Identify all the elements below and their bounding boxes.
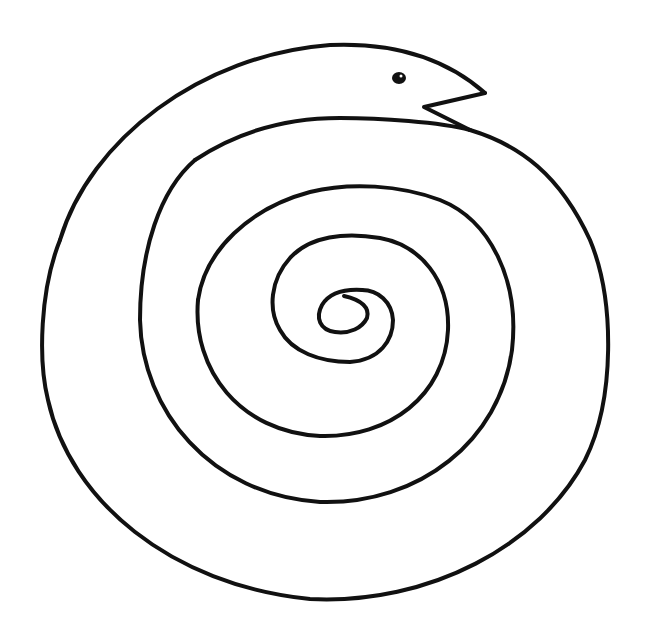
snake-head-lower-jaw (195, 118, 470, 160)
spiral-body-tail (319, 290, 368, 333)
snake-eye-highlight (400, 75, 403, 78)
snake-spiral-illustration (0, 0, 648, 632)
spiral-body-third (197, 235, 448, 436)
snake-eye (392, 72, 406, 84)
drawing-canvas (0, 0, 648, 632)
snake-head-upper-jaw (60, 45, 485, 240)
spiral-body-outer (42, 130, 608, 599)
